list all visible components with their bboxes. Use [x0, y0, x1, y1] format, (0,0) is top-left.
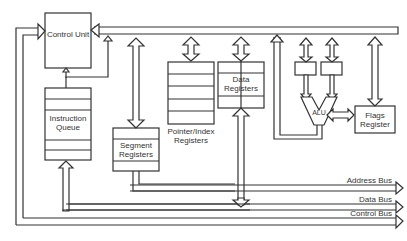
flags-register-label: Flags Register: [355, 111, 395, 129]
pointer-index-registers-label: Pointer/Index Registers: [160, 127, 222, 145]
data-bus-label: Data Bus: [300, 195, 392, 204]
pointer-index-registers-box: [168, 62, 214, 124]
alu-label: ALU: [306, 108, 332, 117]
segment-registers-label: Segment Registers: [113, 141, 159, 159]
data-registers-label: Data Registers: [218, 75, 264, 93]
internal-bus: [94, 27, 398, 34]
instruction-queue-label: Instruction Queue: [45, 114, 91, 132]
control-bus-label: Control Bus: [300, 209, 392, 218]
control-unit-box: [45, 13, 91, 68]
control-unit-label: Control Unit: [45, 30, 91, 39]
address-bus-label: Address Bus: [300, 176, 392, 185]
